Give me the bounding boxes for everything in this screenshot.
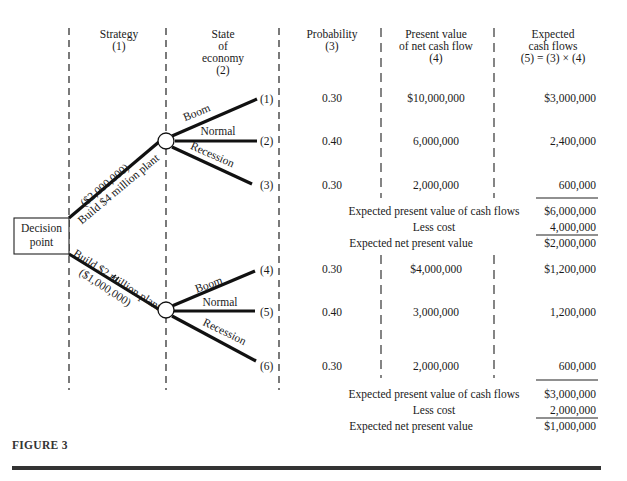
- present-value: 3,000,000: [413, 306, 459, 319]
- outcome-row: 0.30 $4,000,000 $1,200,000: [322, 263, 596, 276]
- header-line: (2): [216, 64, 230, 77]
- probability-value: 0.30: [322, 92, 342, 104]
- present-value: $4,000,000: [410, 263, 462, 276]
- summary-2: Expected present value of cash flows $3,…: [349, 388, 598, 433]
- probability-value: 0.40: [322, 306, 342, 318]
- header-probability: Probability (3): [306, 28, 357, 53]
- decision-tree-figure: Strategy (1) State of economy (2) Probab…: [0, 0, 627, 481]
- expected-value: 600,000: [559, 179, 597, 192]
- chance-node-1: [158, 133, 174, 149]
- expected-value: $3,000,000: [544, 92, 596, 105]
- outcome-row: 0.30 $10,000,000 $3,000,000: [322, 92, 596, 105]
- expected-value: 1,200,000: [550, 306, 596, 319]
- epv-value: $3,000,000: [544, 388, 596, 401]
- epv-label: Expected present value of cash flows: [349, 388, 520, 401]
- strategy-label-2: Build $2 million plant ($1,000,000): [64, 247, 164, 325]
- header-line: (4): [429, 52, 443, 65]
- decision-label: Decision: [21, 222, 62, 234]
- outcome-number: (5): [260, 306, 274, 319]
- decision-label: point: [30, 236, 54, 249]
- figure-label: FIGURE 3: [12, 439, 68, 451]
- decision-point-node: Decision point: [14, 218, 69, 254]
- state-label: Normal: [202, 296, 237, 308]
- header-line: (5) = (3) × (4): [521, 52, 586, 65]
- outcome-number: (2): [260, 135, 274, 148]
- outcome-number: (4): [260, 264, 274, 277]
- probability-value: 0.40: [322, 135, 342, 147]
- outcome-number: (3): [260, 179, 274, 192]
- present-value: $10,000,000: [407, 92, 465, 105]
- expected-value: $1,200,000: [544, 263, 596, 276]
- probability-value: 0.30: [322, 263, 342, 275]
- header-line: cash flows: [529, 40, 578, 52]
- expected-value: 2,400,000: [550, 135, 596, 148]
- header-line: of net cash flow: [399, 40, 473, 52]
- summary-1: Expected present value of cash flows $6,…: [349, 205, 598, 250]
- npv-label: Expected net present value: [349, 237, 473, 250]
- cost-value: 2,000,000: [550, 404, 596, 417]
- epv-label: Expected present value of cash flows: [349, 205, 520, 218]
- npv-label: Expected net present value: [349, 420, 473, 433]
- outcome-number: (6): [260, 360, 274, 373]
- header-line: State: [212, 28, 235, 40]
- header-present-value: Present value of net cash flow (4): [399, 28, 473, 65]
- cost-label: Less cost: [413, 404, 456, 416]
- state-label: Recession: [201, 316, 248, 347]
- npv-value: $1,000,000: [544, 420, 596, 433]
- strategy-label-1: ($2,000,000) Build $4 million plant: [68, 142, 163, 227]
- present-value: 2,000,000: [413, 179, 459, 192]
- present-value: 6,000,000: [413, 135, 459, 148]
- header-line: (1): [112, 40, 126, 53]
- expected-value: 600,000: [559, 360, 597, 373]
- probability-value: 0.30: [322, 360, 342, 372]
- outcome-number: (1): [260, 93, 274, 106]
- outcome-row: 0.40 6,000,000 2,400,000: [322, 135, 596, 148]
- header-line: Present value: [405, 28, 467, 40]
- chance-node-2: [158, 302, 174, 318]
- cost-label: Less cost: [413, 221, 456, 233]
- present-value: 2,000,000: [413, 360, 459, 373]
- state-label: Normal: [200, 125, 235, 137]
- outcome-row: 0.30 2,000,000 600,000: [322, 360, 596, 373]
- bottom-rule: [12, 466, 601, 470]
- strategy-name: Build $4 million plant: [75, 151, 162, 227]
- npv-value: $2,000,000: [544, 237, 596, 250]
- header-strategy: Strategy (1): [100, 28, 139, 53]
- outcome-row: 0.30 2,000,000 600,000: [322, 179, 596, 192]
- header-line: (3): [325, 40, 339, 53]
- probability-value: 0.30: [322, 179, 342, 191]
- outcome-row: 0.40 3,000,000 1,200,000: [322, 306, 596, 319]
- cost-value: 4,000,000: [550, 221, 596, 234]
- header-expected: Expected cash flows (5) = (3) × (4): [521, 28, 586, 65]
- header-state: State of economy (2): [202, 28, 244, 77]
- header-line: of: [218, 40, 228, 52]
- epv-value: $6,000,000: [544, 205, 596, 218]
